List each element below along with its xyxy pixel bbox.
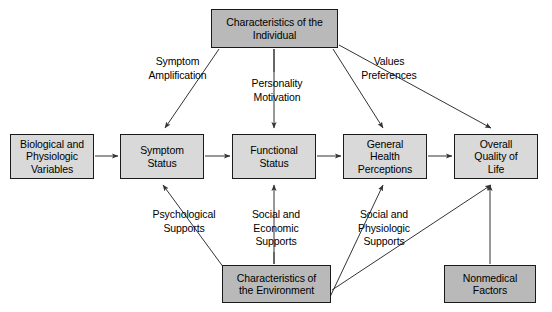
node-label: Characteristics of the Environment — [234, 272, 319, 297]
node-label: Nonmedical Factors — [460, 272, 520, 297]
edge-label-values-preferences: Values Preferences — [347, 55, 431, 82]
node-general-health-perceptions[interactable]: General Health Perceptions — [343, 134, 427, 179]
node-symptom-status[interactable]: Symptom Status — [120, 134, 204, 179]
node-label: General Health Perceptions — [355, 138, 415, 176]
node-biological-physiologic-variables[interactable]: Biological and Physiologic Variables — [10, 134, 94, 179]
node-characteristics-environment[interactable]: Characteristics of the Environment — [222, 265, 331, 303]
node-overall-quality-of-life[interactable]: Overall Quality of Life — [454, 134, 538, 179]
edge-label-social-physiologic-supports: Social and Physiologic Supports — [348, 208, 420, 249]
node-label: Symptom Status — [137, 144, 187, 169]
node-characteristics-individual[interactable]: Characteristics of the Individual — [211, 9, 338, 48]
node-label: Overall Quality of Life — [471, 138, 520, 176]
edge-label-social-economic-supports: Social and Economic Supports — [240, 208, 312, 249]
node-functional-status[interactable]: Functional Status — [232, 134, 316, 179]
node-label: Biological and Physiologic Variables — [17, 138, 87, 176]
node-label: Characteristics of the Individual — [223, 16, 325, 41]
node-label: Functional Status — [247, 144, 300, 169]
edge-label-psychological-supports: Psychological Supports — [138, 208, 230, 235]
diagram-canvas: Characteristics of the Individual Biolog… — [0, 0, 552, 312]
edge-label-symptom-amplification: Symptom Amplification — [129, 55, 226, 82]
edge-label-personality-motivation: Personality Motivation — [235, 77, 319, 104]
node-nonmedical-factors[interactable]: Nonmedical Factors — [444, 265, 536, 303]
